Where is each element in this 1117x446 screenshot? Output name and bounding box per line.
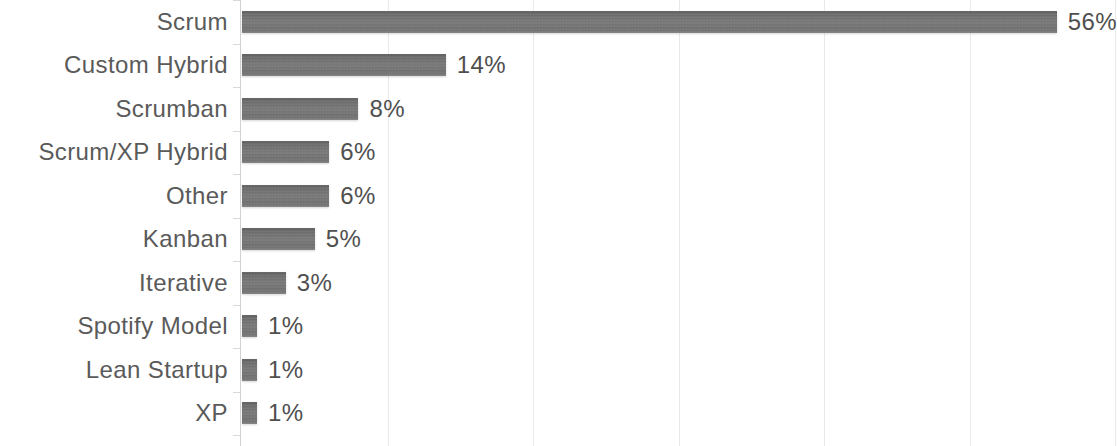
bar-value-label: 1% xyxy=(268,358,304,382)
axis-tick xyxy=(233,435,240,436)
bar-value-label: 5% xyxy=(326,227,362,251)
bar xyxy=(242,185,329,207)
bar-row: XP1% xyxy=(0,392,1117,436)
bar-and-value: 1% xyxy=(242,402,304,424)
category-label: Scrum xyxy=(0,10,228,34)
category-label: Kanban xyxy=(0,227,228,251)
bar xyxy=(242,272,286,294)
bar-and-value: 14% xyxy=(242,54,506,76)
bar-and-value: 1% xyxy=(242,359,304,381)
bar-row: Lean Startup1% xyxy=(0,348,1117,392)
bar-row: Scrumban8% xyxy=(0,87,1117,131)
bar xyxy=(242,402,257,424)
bar-value-label: 6% xyxy=(340,140,376,164)
bar-value-label: 6% xyxy=(340,184,376,208)
bar-row: Custom Hybrid14% xyxy=(0,44,1117,88)
bar xyxy=(242,11,1057,33)
bar-and-value: 3% xyxy=(242,272,332,294)
category-label: Other xyxy=(0,184,228,208)
category-label: Custom Hybrid xyxy=(0,53,228,77)
bar-row: Scrum56% xyxy=(0,0,1117,44)
category-label: XP xyxy=(0,401,228,425)
bar xyxy=(242,359,257,381)
bar-and-value: 1% xyxy=(242,315,304,337)
bar xyxy=(242,228,315,250)
bar-value-label: 8% xyxy=(369,97,405,121)
bar-value-label: 1% xyxy=(268,401,304,425)
bar xyxy=(242,54,446,76)
plot-area: Scrum56%Custom Hybrid14%Scrumban8%Scrum/… xyxy=(0,0,1117,446)
bar-row: Iterative3% xyxy=(0,261,1117,305)
category-label: Spotify Model xyxy=(0,314,228,338)
category-label: Scrum/XP Hybrid xyxy=(0,140,228,164)
bar-value-label: 56% xyxy=(1068,10,1117,34)
bar-row: Scrum/XP Hybrid6% xyxy=(0,131,1117,175)
category-label: Scrumban xyxy=(0,97,228,121)
category-label: Lean Startup xyxy=(0,358,228,382)
bar-row: Kanban5% xyxy=(0,218,1117,262)
bar-and-value: 56% xyxy=(242,11,1117,33)
category-label: Iterative xyxy=(0,271,228,295)
bar-value-label: 1% xyxy=(268,314,304,338)
bar-row: Spotify Model1% xyxy=(0,305,1117,349)
bar-and-value: 8% xyxy=(242,98,405,120)
bar-and-value: 5% xyxy=(242,228,361,250)
bar xyxy=(242,98,358,120)
bar-chart: Scrum56%Custom Hybrid14%Scrumban8%Scrum/… xyxy=(0,0,1117,446)
bar-value-label: 3% xyxy=(297,271,333,295)
bar xyxy=(242,315,257,337)
bar-and-value: 6% xyxy=(242,141,376,163)
bar-and-value: 6% xyxy=(242,185,376,207)
bar xyxy=(242,141,329,163)
bar-row: Other6% xyxy=(0,174,1117,218)
bar-value-label: 14% xyxy=(457,53,506,77)
